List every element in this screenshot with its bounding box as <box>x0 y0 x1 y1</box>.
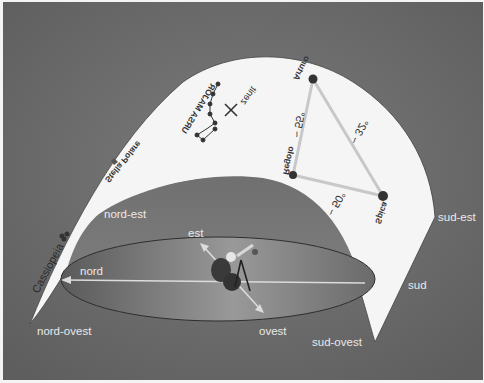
arturo-star-icon <box>309 75 318 84</box>
label-ovest: ovest <box>259 325 287 337</box>
spica-star-icon <box>378 191 388 201</box>
label-sud-ovest: sud-ovest <box>312 336 363 348</box>
label-est: est <box>188 227 204 239</box>
label-nord: nord <box>80 265 103 277</box>
label-sud: sud <box>408 279 427 291</box>
label-sud-est: sud-est <box>438 211 477 223</box>
sky-dome-diagram: Stella Polare URSA MAJOR zenit Arturo Re… <box>3 2 483 380</box>
label-nord-est: nord-est <box>104 208 147 220</box>
label-nord-ovest: nord-ovest <box>37 325 92 337</box>
